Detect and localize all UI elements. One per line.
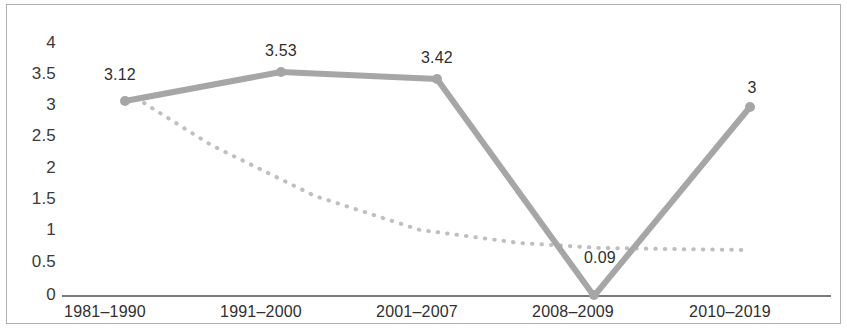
x-axis-tick-2001-2007: 2001–2007 <box>342 303 492 320</box>
data-point-marker-3 <box>432 74 442 84</box>
main-series-line <box>125 72 750 296</box>
x-axis-tick-1991-2000: 1991–2000 <box>186 303 336 320</box>
data-point-marker-4 <box>589 290 599 300</box>
data-label-5: 3 <box>712 79 792 96</box>
data-label-1: 3.12 <box>80 66 160 83</box>
data-point-marker-5 <box>745 102 755 112</box>
trendline-series <box>136 98 748 250</box>
data-point-marker-1 <box>120 96 130 106</box>
x-axis-tick-1981-1990: 1981–1990 <box>30 303 180 320</box>
line-chart: 4 3.5 3 2.5 2 1.5 1 0.5 0 3.12 3.53 3.42… <box>0 0 847 328</box>
data-label-3: 3.42 <box>397 49 477 66</box>
data-label-2: 3.53 <box>241 42 321 59</box>
data-label-4: 0.09 <box>560 249 640 266</box>
x-axis-tick-2008-2009: 2008–2009 <box>498 303 648 320</box>
data-point-marker-2 <box>276 67 286 77</box>
x-axis-tick-2010-2019: 2010–2019 <box>655 303 805 320</box>
